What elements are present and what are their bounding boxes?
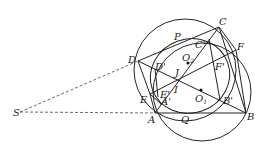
center-o1 [200, 89, 203, 92]
geometry-diagram: S A Q B C D E F P I J O1 O2 A' B' C'' D'… [0, 0, 263, 153]
label-i: I [173, 84, 179, 95]
label-j: J [173, 67, 180, 78]
label-a: A [147, 114, 155, 125]
label-b-prime: B' [222, 95, 233, 106]
label-o2-base: O [182, 52, 190, 63]
label-o2-sub: 2 [189, 57, 194, 64]
label-q: Q [181, 114, 189, 125]
label-o2: O2 [182, 52, 194, 64]
label-c-prime: C'' [195, 39, 208, 50]
dashed-line-sa [20, 112, 155, 113]
label-f-prime: F' [214, 61, 225, 72]
label-e-prime: E' [159, 89, 170, 100]
segment-fb [236, 50, 246, 113]
label-e: E [139, 94, 148, 105]
label-o1-base: O [195, 93, 203, 104]
label-o1: O1 [195, 93, 207, 105]
label-c: C [219, 16, 227, 27]
label-b: B [246, 111, 254, 122]
label-d-prime: D' [154, 61, 166, 72]
inscribed-ellipse [140, 28, 240, 125]
label-p: P [173, 31, 181, 42]
dashed-line-sd [20, 61, 138, 112]
label-o1-sub: 1 [203, 98, 207, 105]
label-d: D [127, 54, 136, 65]
label-f: F [236, 41, 245, 52]
label-s: S [13, 107, 20, 118]
